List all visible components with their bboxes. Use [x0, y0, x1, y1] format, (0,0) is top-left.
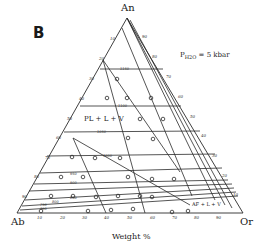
pressure-condition: PH2O = 5 kbar — [180, 51, 230, 60]
bottom-tick-labels: 10 20 30 40 50 60 70 80 90 — [37, 215, 222, 220]
svg-text:50: 50 — [190, 114, 196, 119]
svg-text:40: 40 — [200, 133, 207, 138]
svg-text:70: 70 — [172, 215, 178, 220]
field-label-pl-l-v: PL + L + V — [84, 115, 125, 123]
svg-text:950: 950 — [70, 172, 77, 176]
svg-text:80: 80 — [34, 174, 40, 179]
svg-text:70: 70 — [166, 74, 172, 79]
svg-text:40: 40 — [103, 215, 110, 220]
svg-text:60: 60 — [150, 215, 156, 220]
svg-text:1050: 1050 — [97, 130, 107, 134]
svg-text:50: 50 — [67, 116, 73, 121]
corner-label-an: An — [121, 2, 135, 13]
svg-text:90: 90 — [216, 215, 222, 220]
svg-text:60: 60 — [56, 135, 62, 140]
svg-text:30: 30 — [89, 76, 95, 81]
svg-text:10: 10 — [37, 215, 43, 220]
svg-text:80: 80 — [194, 215, 200, 220]
svg-text:800: 800 — [52, 200, 59, 204]
svg-text:1000: 1000 — [103, 154, 113, 158]
svg-text:900: 900 — [70, 181, 77, 185]
svg-text:50: 50 — [127, 215, 133, 220]
svg-text:70: 70 — [45, 155, 51, 160]
panel-label: B — [33, 24, 44, 42]
svg-text:90: 90 — [22, 194, 28, 199]
data-points — [39, 77, 190, 214]
svg-text:1100: 1100 — [118, 104, 128, 108]
svg-text:20: 20 — [221, 173, 228, 178]
svg-text:20: 20 — [98, 56, 105, 61]
svg-text:30: 30 — [82, 215, 88, 220]
svg-text:1150: 1150 — [120, 67, 130, 71]
ternary-diagram: 10 20 30 40 50 60 70 80 90 90 80 70 60 5… — [0, 0, 258, 249]
svg-text:30: 30 — [212, 153, 218, 158]
svg-text:40: 40 — [78, 96, 85, 101]
field-label-af-l-v: AF + L + V — [191, 201, 221, 207]
corner-label-or: Or — [240, 216, 253, 227]
x-axis-label: Weight % — [112, 232, 151, 241]
svg-text:700: 700 — [40, 207, 47, 211]
svg-text:850: 850 — [70, 196, 77, 200]
svg-text:90: 90 — [142, 34, 148, 39]
svg-text:10: 10 — [233, 192, 239, 197]
corner-label-ab: Ab — [11, 216, 25, 227]
svg-text:20: 20 — [59, 215, 66, 220]
svg-text:80: 80 — [152, 54, 158, 59]
svg-text:60: 60 — [178, 94, 184, 99]
svg-text:10: 10 — [110, 36, 116, 41]
